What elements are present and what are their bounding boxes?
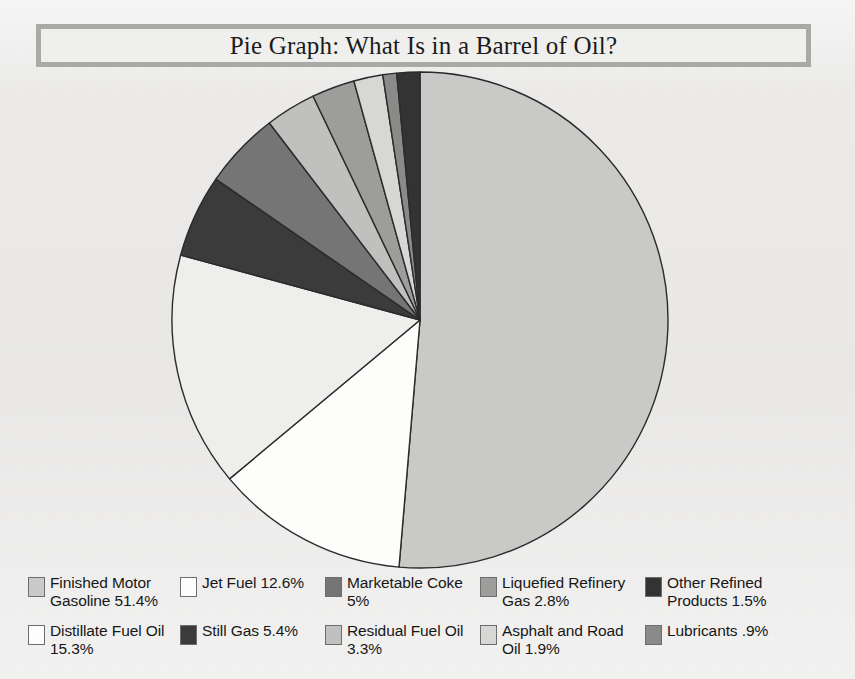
legend-item-distillate-fuel-oil[interactable]: Distillate Fuel Oil 15.3%	[20, 622, 172, 657]
legend-item-still-gas[interactable]: Still Gas 5.4%	[172, 622, 317, 645]
legend-item-liquefied-refinery-gas[interactable]: Liquefied Refinery Gas 2.8%	[472, 574, 637, 609]
legend-swatch-jet-fuel	[180, 577, 197, 597]
legend-label-other-refined-products: Other Refined Products 1.5%	[667, 574, 799, 609]
legend-label-liquefied-refinery-gas: Liquefied Refinery Gas 2.8%	[502, 574, 634, 609]
legend-swatch-lubricants	[645, 625, 662, 645]
pie-slices: Finished Motor Gasoline 51.4%Jet Fuel 12…	[172, 72, 668, 568]
legend-label-residual-fuel-oil: Residual Fuel Oil 3.3%	[347, 622, 472, 657]
legend-row: Distillate Fuel Oil 15.3%Still Gas 5.4%R…	[0, 622, 855, 670]
pie-chart: Finished Motor Gasoline 51.4%Jet Fuel 12…	[0, 60, 855, 575]
legend-label-finished-motor-gasoline: Finished Motor Gasoline 51.4%	[50, 574, 172, 609]
legend-row: Finished Motor Gasoline 51.4%Jet Fuel 12…	[0, 574, 855, 622]
legend-item-other-refined-products[interactable]: Other Refined Products 1.5%	[637, 574, 817, 609]
legend-swatch-liquefied-refinery-gas	[480, 577, 497, 597]
legend-swatch-asphalt-and-road-oil	[480, 625, 497, 645]
legend-item-lubricants[interactable]: Lubricants .9%	[637, 622, 817, 645]
legend-item-marketable-coke[interactable]: Marketable Coke 5%	[317, 574, 472, 609]
legend-label-asphalt-and-road-oil: Asphalt and Road Oil 1.9%	[502, 622, 634, 657]
legend-item-finished-motor-gasoline[interactable]: Finished Motor Gasoline 51.4%	[20, 574, 172, 609]
legend-item-jet-fuel[interactable]: Jet Fuel 12.6%	[172, 574, 317, 597]
legend: Finished Motor Gasoline 51.4%Jet Fuel 12…	[0, 572, 855, 672]
legend-swatch-still-gas	[180, 625, 197, 645]
legend-label-lubricants: Lubricants .9%	[667, 622, 768, 640]
legend-swatch-finished-motor-gasoline	[28, 577, 45, 597]
page-title: Pie Graph: What Is in a Barrel of Oil?	[230, 32, 618, 60]
legend-swatch-residual-fuel-oil	[325, 625, 342, 645]
legend-swatch-other-refined-products	[645, 577, 662, 597]
pie-chart-svg: Finished Motor Gasoline 51.4%Jet Fuel 12…	[0, 60, 855, 575]
legend-item-residual-fuel-oil[interactable]: Residual Fuel Oil 3.3%	[317, 622, 472, 657]
pie-slice-finished-motor-gasoline[interactable]: Finished Motor Gasoline 51.4%	[399, 72, 668, 568]
legend-swatch-marketable-coke	[325, 577, 342, 597]
legend-label-jet-fuel: Jet Fuel 12.6%	[202, 574, 304, 592]
legend-label-marketable-coke: Marketable Coke 5%	[347, 574, 472, 609]
legend-label-distillate-fuel-oil: Distillate Fuel Oil 15.3%	[50, 622, 172, 657]
legend-label-still-gas: Still Gas 5.4%	[202, 622, 298, 640]
legend-swatch-distillate-fuel-oil	[28, 625, 45, 645]
legend-item-asphalt-and-road-oil[interactable]: Asphalt and Road Oil 1.9%	[472, 622, 637, 657]
